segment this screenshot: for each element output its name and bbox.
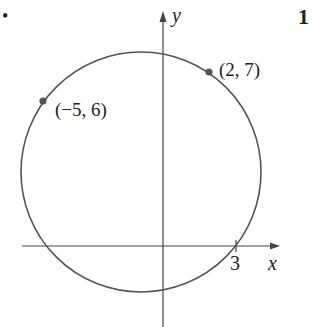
point-2-7 bbox=[205, 68, 212, 75]
point-label-2-7: (2, 7) bbox=[219, 59, 260, 81]
circle-diagram: • 1 3 x y (2, 7) (−5, 6) bbox=[0, 0, 313, 327]
point-neg5-6 bbox=[39, 97, 46, 104]
circle-curve bbox=[21, 52, 261, 292]
x-axis-label: x bbox=[267, 252, 277, 274]
point-label-neg5-6: (−5, 6) bbox=[55, 99, 107, 121]
x-axis-arrow-icon bbox=[270, 243, 280, 250]
y-axis bbox=[160, 11, 167, 327]
y-axis-label: y bbox=[170, 4, 181, 27]
problem-bullet: • bbox=[2, 6, 8, 26]
x-axis bbox=[22, 240, 280, 252]
problem-number: 1 bbox=[298, 4, 309, 29]
x-tick-label: 3 bbox=[230, 252, 240, 274]
y-axis-arrow-icon bbox=[160, 11, 167, 22]
